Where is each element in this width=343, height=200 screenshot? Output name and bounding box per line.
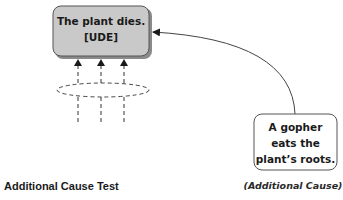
cause-box-line1: A gopher [269,121,324,133]
cause-box-line2: eats the [271,137,320,149]
and-connector-ellipse [57,83,149,97]
cause-label: (Additional Cause) [244,180,343,191]
effect-box-line1: The plant dies. [57,15,145,27]
additional-cause-diagram: The plant dies. [UDE] A gopher eats the … [0,0,343,200]
arrow-up-icon [74,59,82,66]
diagram-title: Additional Cause Test [4,180,119,192]
causal-arrow [153,32,295,114]
arrow-up-icon [97,59,105,66]
arrow-up-icon [120,59,128,66]
dashed-cause-arrows [78,64,124,124]
arrowhead-icons [74,59,128,66]
effect-box-line2: [UDE] [84,31,118,43]
cause-box-line3: plant’s roots. [256,153,335,165]
